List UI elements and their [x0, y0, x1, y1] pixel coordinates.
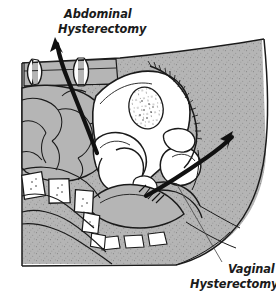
- abdominal-hysterectomy-label: Abdominal Hysterectomy: [58, 7, 147, 36]
- abdominal-label-line2: Hysterectomy: [58, 22, 147, 36]
- vaginal-label-line2: Hysterectomy: [190, 277, 276, 291]
- hysterectomy-diagram: Abdominal Hysterectomy Vaginal Hysterect…: [0, 0, 276, 307]
- abdominal-label-line1: Abdominal: [63, 7, 133, 21]
- anatomical-illustration: Abdominal Hysterectomy Vaginal Hysterect…: [0, 0, 276, 307]
- vaginal-hysterectomy-label: Vaginal Hysterectomy: [190, 262, 276, 291]
- vaginal-label-line1: Vaginal: [228, 262, 276, 276]
